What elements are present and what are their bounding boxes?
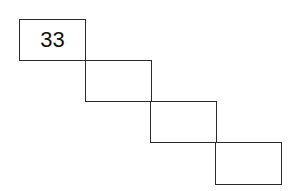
cell-1-value: 33: [40, 27, 64, 53]
cell-1: 33: [19, 19, 86, 61]
cell-4: [215, 142, 282, 185]
cell-3: [150, 101, 217, 143]
cell-2: [85, 60, 152, 102]
